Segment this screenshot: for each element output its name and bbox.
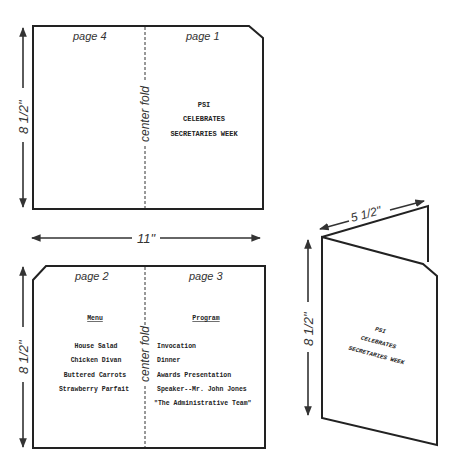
inside-sheet: center fold page 2 page 3 Menu House Sal… (33, 266, 265, 448)
svg-text:8 1/2": 8 1/2" (301, 311, 316, 346)
svg-text:PSI: PSI (198, 101, 211, 109)
booklet-layout-diagram: center fold page 4 page 1 PSI CELEBRATES… (0, 0, 459, 470)
folded-height-dimension: 8 1/2" (301, 240, 316, 415)
svg-text:SECRETARIES WEEK: SECRETARIES WEEK (170, 130, 238, 138)
svg-text:Strawberry Parfait: Strawberry Parfait (59, 386, 129, 393)
svg-text:"The Administrative Team": "The Administrative Team" (154, 400, 252, 407)
svg-text:Buttered Carrots: Buttered Carrots (64, 372, 127, 379)
height-dimension-top: 8 1/2" (16, 28, 31, 207)
svg-text:8 1/2": 8 1/2" (16, 99, 31, 134)
height-dimension-bottom: 8 1/2" (16, 267, 31, 447)
width-dimension: 11" (32, 231, 260, 246)
program-heading: Program (192, 315, 219, 322)
svg-text:Chicken Divan: Chicken Divan (71, 357, 122, 364)
center-fold-label: center fold (138, 86, 152, 142)
menu-heading: Menu (87, 315, 103, 322)
folded-booklet: PSI CELEBRATES SECRETARIES WEEK (322, 206, 437, 445)
svg-text:Speaker--Mr. John Jones: Speaker--Mr. John Jones (157, 386, 247, 393)
svg-text:CELEBRATES: CELEBRATES (183, 115, 225, 123)
page-1-label: page 1 (185, 30, 220, 42)
svg-text:center fold: center fold (138, 326, 152, 382)
svg-text:House Salad: House Salad (75, 343, 118, 350)
svg-text:Dinner: Dinner (157, 357, 181, 364)
outside-sheet: center fold page 4 page 1 PSI CELEBRATES… (33, 26, 263, 209)
page-3-label: page 3 (188, 270, 224, 282)
svg-text:11": 11" (137, 231, 156, 246)
svg-text:Invocation: Invocation (157, 343, 196, 350)
page-2-label: page 2 (74, 270, 109, 282)
page-4-label: page 4 (72, 30, 107, 42)
svg-text:8 1/2": 8 1/2" (16, 339, 31, 374)
svg-text:Awards Presentation: Awards Presentation (157, 372, 231, 379)
